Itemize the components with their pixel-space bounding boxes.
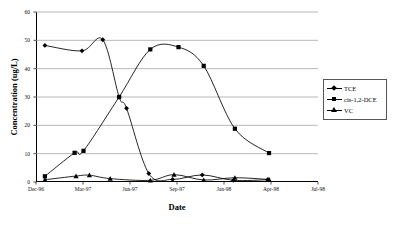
legend-label-tce: TCE: [342, 84, 356, 93]
data-point-marker: [202, 64, 206, 68]
data-point-marker: [267, 151, 271, 155]
x-tick-label: Dec-96: [14, 186, 58, 193]
data-point-marker: [81, 149, 85, 153]
legend-item-cis-dce: cis-1,2-DCE: [326, 94, 384, 105]
x-axis-title: Date: [36, 202, 318, 212]
data-point-marker: [117, 95, 121, 99]
gridlines: [34, 12, 319, 182]
data-series-layer: [42, 37, 271, 182]
legend-marker-square-icon: [327, 95, 342, 104]
concentration-vs-date-chart: Concentration (ug/L) 0102030405060 Dec-9…: [0, 0, 393, 225]
data-point-marker: [124, 106, 129, 111]
x-tick-label: Sep-97: [155, 186, 199, 193]
data-point-marker: [148, 47, 152, 51]
data-point-marker: [233, 127, 237, 131]
series-line-tce: [45, 38, 268, 181]
data-point-marker: [176, 45, 180, 49]
legend-label-cis-dce: cis-1,2-DCE: [342, 95, 377, 104]
legend-label-vc: VC: [342, 106, 353, 115]
legend-item-tce: TCE: [326, 83, 384, 94]
x-axis-ticks: [36, 182, 318, 185]
data-point-marker: [72, 151, 76, 155]
x-tick-label: Jul-98: [296, 186, 340, 193]
legend-marker-triangle-icon: [327, 106, 342, 115]
legend-marker-diamond-icon: [327, 84, 342, 93]
data-point-marker: [200, 173, 205, 178]
data-point-marker: [43, 43, 48, 48]
data-point-marker: [170, 177, 175, 182]
x-tick-label: Jun-97: [108, 186, 152, 193]
chart-legend: TCE cis-1,2-DCE VC: [323, 79, 387, 120]
series-line-cis-1-2-dce: [45, 44, 269, 176]
x-tick-label: Mar-97: [61, 186, 105, 193]
legend-item-vc: VC: [326, 105, 384, 116]
x-tick-label: Jan-98: [202, 186, 246, 193]
x-tick-label: Apr-98: [249, 186, 293, 193]
data-point-marker: [80, 48, 85, 53]
